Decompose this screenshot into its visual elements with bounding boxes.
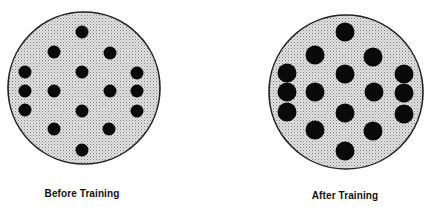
after-training-dot: [336, 142, 355, 161]
before-training-dot: [104, 85, 117, 98]
before-training-dot: [48, 123, 61, 136]
after-training-dot: [278, 83, 297, 102]
before-training-dot: [131, 85, 144, 98]
after-training-dot: [306, 121, 325, 140]
after-training-dot: [365, 83, 384, 102]
before-training-dot: [131, 105, 144, 118]
after-training-dot: [278, 103, 297, 122]
after-training-dot: [336, 65, 355, 84]
after-training-dot: [306, 83, 325, 102]
before-training-dot: [104, 47, 117, 60]
after-training-dot: [395, 105, 414, 124]
before-training-dot: [76, 144, 89, 157]
before-training-dot: [76, 105, 89, 118]
before-training-caption: Before Training: [45, 188, 120, 199]
before-training-dot: [76, 26, 89, 39]
before-training-dot: [103, 123, 116, 136]
before-training-dot: [131, 67, 144, 80]
before-training-dot: [76, 66, 89, 79]
before-training-dot: [48, 85, 61, 98]
after-training-dot: [306, 46, 325, 65]
after-training-dot: [336, 23, 355, 42]
after-training-dot: [364, 122, 383, 141]
before-training-dot: [19, 85, 32, 98]
before-training-dot: [19, 104, 32, 117]
after-training-dot: [336, 104, 355, 123]
after-training-caption: After Training: [312, 190, 378, 201]
before-training-dot: [48, 46, 61, 59]
after-training-panel: [269, 15, 423, 169]
before-training-dot: [19, 66, 32, 79]
after-training-dot: [395, 65, 414, 84]
after-training-dot: [364, 48, 383, 67]
before-training-panel: [8, 12, 160, 164]
after-training-dot: [395, 84, 414, 103]
after-training-dot: [278, 64, 297, 83]
training-comparison-diagram: [0, 0, 430, 207]
